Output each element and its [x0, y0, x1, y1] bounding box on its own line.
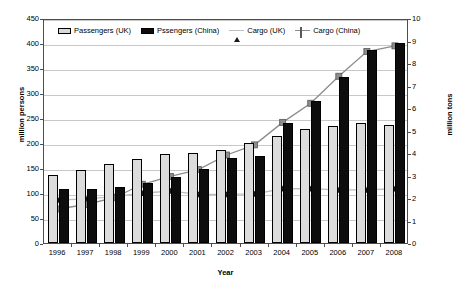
y-axis-left-tick-label: 150: [11, 165, 39, 173]
bar-passengers-china: [227, 158, 237, 244]
y-axis-right-tick-label: 9: [412, 38, 438, 46]
y-axis-right-tick-label: 10: [412, 15, 438, 23]
chart-container: million persons million tons Year 050100…: [0, 0, 453, 291]
bar-passengers-uk: [384, 125, 394, 243]
legend-label: Passengers (UK): [74, 26, 131, 35]
y-axis-right-tick-mark: [408, 222, 411, 223]
bar-passengers-china: [199, 169, 209, 243]
y-axis-left-tick-label: 0: [11, 240, 39, 248]
x-axis-tick-mark: [127, 244, 128, 247]
bar-passengers-uk: [328, 126, 338, 244]
y-axis-left-tick-mark: [40, 244, 43, 245]
bar-passengers-china: [311, 101, 321, 243]
legend-line-square-icon: [295, 27, 310, 34]
x-axis-tick-mark: [155, 244, 156, 247]
bar-passengers-uk: [132, 159, 142, 243]
bar-passengers-china: [87, 189, 97, 244]
x-axis-tick-mark: [380, 244, 381, 247]
bar-passengers-uk: [48, 175, 58, 243]
bar-passengers-uk: [300, 129, 310, 243]
legend-item: Cargo (UK): [229, 26, 285, 35]
legend-swatch-bar-dark-icon: [141, 28, 154, 34]
bar-passengers-china: [143, 183, 153, 243]
y-axis-left-tick-label: 200: [11, 140, 39, 148]
bar-passengers-uk: [188, 153, 198, 244]
y-axis-left-tick-mark: [40, 169, 43, 170]
bar-passengers-uk: [272, 136, 282, 244]
y-axis-left-tick-label: 100: [11, 190, 39, 198]
y-axis-right-tick-mark: [408, 64, 411, 65]
y-axis-right-tick-mark: [408, 199, 411, 200]
y-axis-left-tick-mark: [40, 44, 43, 45]
bar-passengers-china: [115, 187, 125, 244]
y-axis-right-tick-mark: [408, 87, 411, 88]
legend: Passengers (UK)Pssengers (China)Cargo (U…: [58, 26, 360, 35]
y-axis-left-tick-label: 250: [11, 115, 39, 123]
y-axis-right-tick-label: 7: [412, 83, 438, 91]
x-axis-tick-mark: [352, 244, 353, 247]
y-axis-left-tick-label: 50: [11, 215, 39, 223]
y-axis-left-tick-label: 450: [11, 15, 39, 23]
y-axis-right-tick-label: 1: [412, 218, 438, 226]
y-axis-right-tick-mark: [408, 42, 411, 43]
y-axis-right-tick-mark: [408, 109, 411, 110]
bar-passengers-uk: [160, 154, 170, 244]
y-axis-right-tick-label: 2: [412, 195, 438, 203]
bar-passengers-china: [283, 123, 293, 244]
x-axis-tick-mark: [268, 244, 269, 247]
x-axis-tick-mark: [211, 244, 212, 247]
y-axis-right-tick-mark: [408, 132, 411, 133]
legend-label: Pssengers (China): [157, 26, 219, 35]
legend-label: Cargo (China): [313, 26, 360, 35]
y-axis-right-tick-label: 4: [412, 150, 438, 158]
legend-item: Cargo (China): [295, 26, 360, 35]
y-axis-right-tick-label: 8: [412, 60, 438, 68]
x-axis-tick-mark: [99, 244, 100, 247]
x-axis-tick-mark: [324, 244, 325, 247]
bar-passengers-uk: [244, 143, 254, 243]
y-axis-left-tick-mark: [40, 94, 43, 95]
y-axis-left-tick-label: 300: [11, 90, 39, 98]
bar-passengers-uk: [356, 123, 366, 243]
bar-passengers-china: [367, 50, 377, 243]
y-axis-right-tick-mark: [408, 154, 411, 155]
legend-item: Passengers (UK): [58, 26, 131, 35]
y-axis-left-tick-mark: [40, 69, 43, 70]
legend-label: Cargo (UK): [247, 26, 285, 35]
y-axis-right-title: million tons: [445, 75, 453, 155]
y-axis-right-tick-label: 0: [412, 240, 438, 248]
bar-passengers-china: [59, 189, 69, 243]
y-axis-left-tick-mark: [40, 194, 43, 195]
bar-passengers-china: [395, 43, 405, 243]
bar-passengers-uk: [216, 150, 226, 244]
bar-passengers-china: [339, 77, 349, 243]
x-axis-tick-mark: [240, 244, 241, 247]
y-axis-right-tick-mark: [408, 19, 411, 20]
y-axis-left-tick-mark: [40, 19, 43, 20]
y-axis-right-tick-mark: [408, 177, 411, 178]
y-axis-left-tick-mark: [40, 144, 43, 145]
x-axis-title: Year: [43, 268, 408, 277]
bar-passengers-china: [255, 156, 265, 243]
plot-area: [43, 19, 408, 244]
y-axis-right-tick-label: 3: [412, 173, 438, 181]
bar-passengers-uk: [104, 164, 114, 243]
y-axis-right-tick-label: 5: [412, 128, 438, 136]
y-axis-left-tick-mark: [40, 219, 43, 220]
y-axis-left-tick-label: 400: [11, 40, 39, 48]
legend-swatch-bar-light-icon: [58, 28, 71, 34]
x-axis-tick-label: 2008: [374, 248, 414, 257]
y-axis-right-tick-mark: [408, 244, 411, 245]
x-axis-tick-mark: [71, 244, 72, 247]
x-axis-tick-mark: [296, 244, 297, 247]
y-axis-left-tick-label: 350: [11, 65, 39, 73]
x-axis-tick-mark: [183, 244, 184, 247]
bar-passengers-china: [171, 177, 181, 244]
bar-passengers-uk: [76, 170, 86, 243]
y-axis-left-tick-mark: [40, 119, 43, 120]
y-axis-right-tick-label: 6: [412, 105, 438, 113]
legend-item: Pssengers (China): [141, 26, 219, 35]
legend-line-triangle-icon: [229, 27, 244, 34]
